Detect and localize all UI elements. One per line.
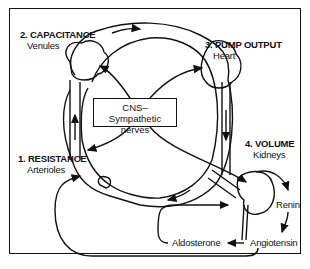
- resistance-label: 1. RESISTANCE Arterioles: [18, 153, 87, 175]
- volume-label: 4. VOLUME Kidneys: [245, 138, 294, 160]
- pump-output-title: 3. PUMP OUTPUT: [205, 39, 282, 50]
- volume-title: 4. VOLUME: [245, 138, 294, 149]
- capacitance-title: 2. CAPACITANCE: [20, 29, 96, 40]
- capacitance-label: 2. CAPACITANCE Venules: [20, 29, 96, 51]
- resistance-subtitle: Arterioles: [18, 164, 87, 175]
- resistance-title: 1. RESISTANCE: [18, 153, 87, 164]
- volume-subtitle: Kidneys: [245, 149, 294, 160]
- cns-line2: Sympathetic nerves: [94, 113, 176, 135]
- cns-box: CNS– Sympathetic nerves: [93, 98, 177, 127]
- pump-output-subtitle: Heart: [205, 50, 282, 61]
- pump-output-label: 3. PUMP OUTPUT Heart: [205, 39, 282, 61]
- aldosterone-label: Aldosterone: [172, 237, 221, 248]
- cns-line1: CNS–: [94, 102, 176, 113]
- kidney-shape: [237, 172, 274, 215]
- capacitance-subtitle: Venules: [20, 40, 96, 51]
- renin-label: Renin: [276, 199, 300, 210]
- angiotensin-label: Angiotensin: [250, 237, 297, 248]
